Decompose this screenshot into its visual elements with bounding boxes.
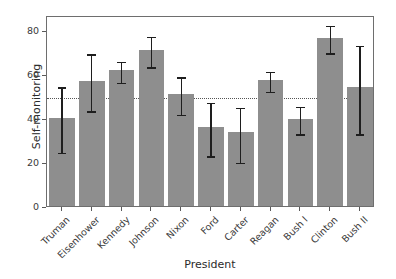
error-bar-stem (330, 26, 331, 53)
self-monitoring-bar-chart: Self-monitoring 020406080 TrumanEisenhow… (0, 0, 396, 279)
error-bar-cap-upper (87, 54, 96, 55)
error-bar-cap-upper (356, 46, 365, 47)
y-tick-label: 0 (15, 202, 39, 212)
x-tick-mark (91, 207, 92, 211)
error-bar-stem (210, 103, 211, 157)
error-bar-cap-lower (266, 92, 275, 93)
error-bar-stem (240, 108, 241, 163)
error-bar-stem (300, 107, 301, 134)
error-bar-cap-upper (207, 103, 216, 104)
y-tick-label: 60 (15, 70, 39, 80)
x-tick-mark (150, 207, 151, 211)
bar-johnson (139, 50, 165, 206)
error-bar-cap-upper (147, 37, 156, 38)
x-tick-mark (270, 207, 271, 211)
error-bar-cap-upper (236, 108, 245, 109)
x-tick-mark (240, 207, 241, 211)
error-bar-cap-lower (87, 111, 96, 112)
error-bar-cap-upper (117, 62, 126, 63)
error-bar-cap-lower (177, 115, 186, 116)
error-bar-cap-upper (177, 77, 186, 78)
error-bar-cap-upper (266, 72, 275, 73)
error-bar-cap-lower (147, 67, 156, 68)
x-tick-mark (299, 207, 300, 211)
bar-clinton (317, 38, 343, 206)
error-bar-cap-lower (58, 153, 67, 154)
error-bar-stem (91, 54, 92, 111)
error-bar-stem (61, 87, 62, 153)
y-tick-mark (42, 207, 46, 208)
x-tick-mark (180, 207, 181, 211)
error-bar-cap-lower (117, 83, 126, 84)
x-tick-mark (121, 207, 122, 211)
error-bar-cap-lower (356, 134, 365, 135)
error-bar-cap-lower (326, 53, 335, 54)
error-bar-stem (270, 72, 271, 92)
x-tick-mark (359, 207, 360, 211)
x-tick-mark (61, 207, 62, 211)
y-tick-label: 20 (15, 158, 39, 168)
y-tick-label: 40 (15, 114, 39, 124)
bar-reagan (258, 80, 284, 206)
error-bar-cap-lower (296, 134, 305, 135)
error-bar-cap-upper (326, 26, 335, 27)
error-bar-cap-lower (207, 156, 216, 157)
x-tick-mark (329, 207, 330, 211)
error-bar-cap-lower (236, 163, 245, 164)
bar-kennedy (109, 70, 135, 206)
y-tick-label: 80 (15, 26, 39, 36)
error-bar-cap-upper (296, 107, 305, 108)
error-bar-stem (359, 46, 360, 135)
x-axis-title: President (46, 258, 374, 271)
error-bar-stem (181, 77, 182, 114)
error-bar-stem (151, 37, 152, 68)
error-bar-stem (121, 62, 122, 83)
plot-area (46, 16, 374, 207)
x-tick-mark (210, 207, 211, 211)
error-bar-cap-upper (58, 87, 67, 88)
